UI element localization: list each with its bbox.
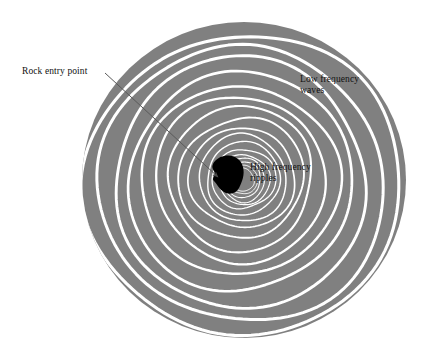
rock-entry-point-label: Rock entry point xyxy=(22,66,87,77)
ripple-diagram: Rock entry point Low frequency waves Hig… xyxy=(0,0,428,352)
ripple-canvas xyxy=(0,0,428,352)
low-frequency-waves-label: Low frequency waves xyxy=(300,74,359,96)
high-frequency-ripples-label: High frequency ripples xyxy=(250,162,311,184)
